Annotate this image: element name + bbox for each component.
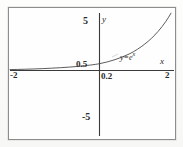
- y-tick-label-5: 5: [83, 16, 88, 26]
- curve-equation-base: y=e: [120, 53, 133, 62]
- x-tick-label-point-two: 0.2: [101, 72, 112, 81]
- x-tick-label-2: 2: [165, 71, 170, 80]
- graph-screenshot: 5 -5 y x 0.5 0.2 -2 2 y=ex: [0, 0, 183, 147]
- plot-canvas: [0, 0, 183, 147]
- x-tick-label-neg2: -2: [10, 71, 18, 80]
- curve-label-leader: [112, 54, 118, 57]
- curve-equation-exponent: x: [133, 51, 136, 57]
- y-tick-label-neg5: -5: [82, 112, 90, 122]
- y-axis-label: y: [102, 15, 106, 24]
- exponential-curve: [10, 13, 171, 69]
- y-tick-label-half: 0.5: [76, 60, 87, 69]
- x-axis-label: x: [160, 57, 164, 66]
- curve-equation-label: y=ex: [120, 51, 135, 62]
